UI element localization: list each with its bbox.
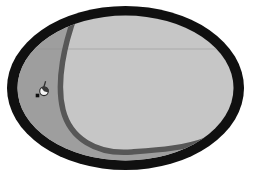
illustration-canvas <box>0 0 256 179</box>
oval-illustration <box>0 0 256 179</box>
sprite-dot <box>36 94 40 98</box>
